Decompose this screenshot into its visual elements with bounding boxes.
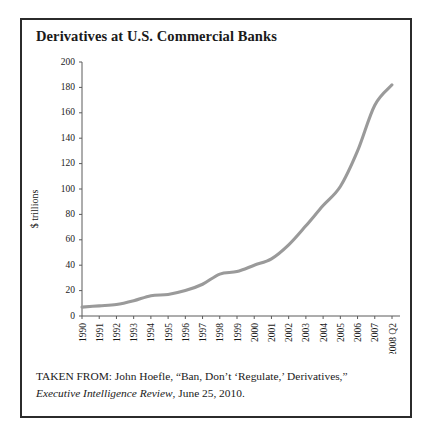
source-caption: TAKEN FROM: John Hoefle, “Ban, Don’t ‘Re… [36,368,398,401]
x-tick-label: 1996 [181,323,191,342]
x-tick-label: 1990 [78,323,88,342]
y-tick-label: 180 [61,82,76,92]
x-tick-label: 2007 [370,323,380,342]
x-tick-label: 1999 [233,323,243,342]
y-tick-label: 120 [61,158,76,168]
x-tick-label: 1998 [215,323,225,342]
y-tick-label: 200 [61,57,76,67]
y-tick-label: 0 [70,311,75,321]
x-tick-label: 2006 [353,323,363,342]
caption-line-1: TAKEN FROM: John Hoefle, “Ban, Don’t ‘Re… [36,370,348,382]
y-tick-label: 40 [66,260,76,270]
line-chart: 020406080100120140160180200 199019911992… [22,54,410,354]
x-tick-label: 1993 [129,323,139,342]
x-tick-label: 2008 Q2 [388,323,398,354]
x-tick-label: 2001 [267,323,277,342]
x-tick-label: 2005 [336,323,346,342]
page-title: Derivatives at U.S. Commercial Banks [36,28,277,45]
y-tick-label: 140 [61,133,76,143]
x-axis: 1990199119921993199419951996199719981999… [78,316,401,354]
chart-plot-area: 020406080100120140160180200 199019911992… [22,54,410,354]
y-axis: 020406080100120140160180200 [61,57,82,321]
caption-line-2-rest: , June 25, 2010. [173,387,245,399]
figure-panel: Derivatives at U.S. Commercial Banks 020… [20,18,412,418]
x-tick-label: 1994 [146,323,156,342]
y-tick-label: 100 [61,184,76,194]
y-axis-title: $ trillions [29,190,40,229]
x-tick-label: 1997 [198,323,208,342]
data-series-line [82,85,392,307]
x-tick-label: 1991 [95,323,105,342]
y-tick-label: 160 [61,107,76,117]
y-tick-label: 60 [66,234,76,244]
y-tick-label: 20 [66,285,76,295]
caption-publication: Executive Intelligence Review [36,387,173,399]
y-tick-label: 80 [66,209,76,219]
x-tick-label: 2002 [284,323,294,342]
x-tick-label: 1995 [164,323,174,342]
x-tick-label: 2004 [319,323,329,342]
x-tick-label: 2000 [250,323,260,342]
x-tick-label: 2003 [301,323,311,342]
x-tick-label: 1992 [112,323,122,342]
